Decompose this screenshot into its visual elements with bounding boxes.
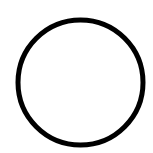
- circle-outline: [18, 20, 143, 145]
- circle-outline-icon: [0, 0, 153, 153]
- canvas: [0, 0, 153, 153]
